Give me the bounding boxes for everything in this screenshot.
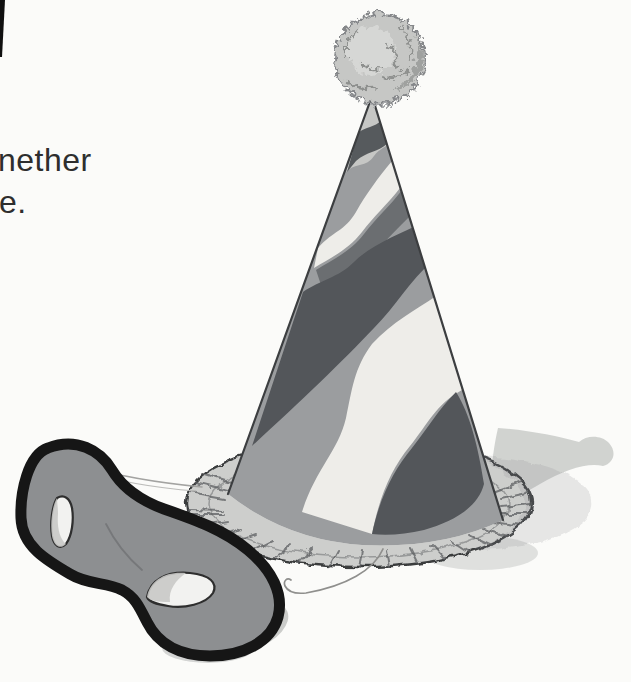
party-hat-and-mask-illustration xyxy=(0,0,631,682)
hat-stripes xyxy=(228,94,503,545)
book-page: nether e. xyxy=(0,0,631,682)
page-edge-mark xyxy=(0,0,5,57)
pom-pom xyxy=(332,11,422,104)
mask-eye-left xyxy=(51,496,73,546)
hat-cone xyxy=(228,94,503,545)
